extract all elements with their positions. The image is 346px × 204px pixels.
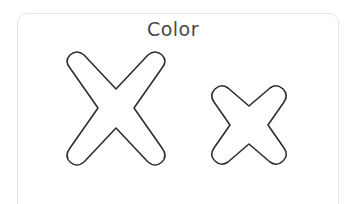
- uppercase-x-outline: [67, 52, 165, 165]
- letter-outlines: [0, 0, 346, 204]
- lowercase-x-outline: [212, 86, 287, 165]
